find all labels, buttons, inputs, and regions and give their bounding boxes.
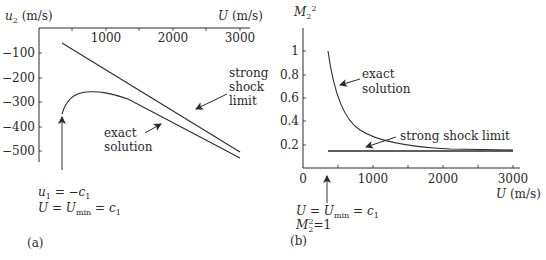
panel-a-ylabel: u2 (m/s) [5,9,53,25]
panel-a-annotation-strong: strong shock limit [229,66,272,108]
panel-a-strong-arrow-icon [196,94,227,109]
panel-a-ytick-200: −200 [2,71,35,85]
panel-a: u2 (m/s) U (m/s) 1000 2000 3000 − [2,9,272,250]
panel-b-xtick-0: 0 [299,172,307,186]
panel-a-xlabel: U (m/s) [218,9,263,23]
panel-a-ytick-100: −100 [2,46,35,60]
panel-b-ytick-0.2: 0.2 [280,138,299,152]
panel-a-ytick-300: −300 [2,95,35,109]
panel-a-condition-2: U = Umin = c1 [38,201,121,217]
panel-b-ytick-1: 1 [291,44,299,58]
panel-a-ytick-400: −400 [2,120,35,134]
panel-a-xtick-1000: 1000 [91,31,122,45]
panel-b-condition-2: M22=1 [295,217,331,234]
panel-b-xtick-2000: 2000 [428,172,459,186]
panel-b-xtick-1000: 1000 [358,172,389,186]
panel-b-ytick-0.6: 0.6 [280,91,299,105]
panel-b-ylabel: M22 [293,4,316,21]
panel-a-annotation-exact: exact solution [104,126,153,154]
panel-b-ytick-0.8: 0.8 [280,68,299,82]
panel-a-xtick-2000: 2000 [158,31,189,45]
panel-a-label: (a) [27,236,44,250]
panel-b-annotation-strong: strong shock limit [400,129,510,143]
panel-b-xlabel: U (m/s) [496,187,541,201]
panel-a-exact-arrow-icon [145,124,161,133]
panel-a-ytick-500: −500 [2,144,35,158]
panel-b-ytick-0.4: 0.4 [280,114,299,128]
panel-b: M22 0.2 0.4 0.6 0.8 1 0 1000 2000 [280,4,541,248]
panel-b-xtick-3000: 3000 [498,172,529,186]
panel-b-annotation-exact: exact solution [362,67,411,96]
figure: u2 (m/s) U (m/s) 1000 2000 3000 − [0,0,546,260]
panel-b-exact-arrow-icon [340,79,360,85]
panel-a-strong-shock-line [62,43,240,152]
panel-a-xtick-3000: 3000 [225,31,256,45]
panel-a-condition-1: u1 = −c1 [38,185,90,201]
panel-b-label: (b) [290,234,307,248]
